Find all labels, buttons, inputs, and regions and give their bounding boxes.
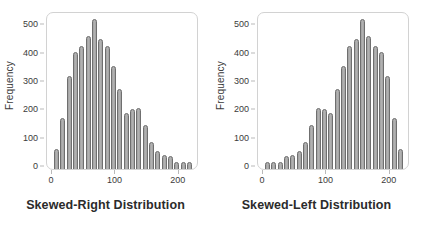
histogram-bar: [265, 162, 270, 170]
y-tick-label: 300: [23, 76, 38, 86]
histogram-bar: [130, 109, 135, 170]
histogram-bar: [79, 46, 84, 170]
x-tick-label: 0: [49, 175, 54, 185]
histogram-bar: [303, 142, 308, 170]
histogram-bar: [168, 156, 173, 170]
histogram-bar: [162, 155, 167, 170]
histogram-bar: [347, 46, 352, 170]
y-tick-label: 100: [234, 133, 249, 143]
histogram-bars-left: [47, 13, 197, 169]
histogram-bar: [271, 162, 276, 170]
panel-title-left: Skewed-Right Distribution: [0, 198, 211, 212]
histogram-bar: [284, 156, 289, 170]
histogram-bar: [341, 66, 346, 170]
histogram-bar: [136, 108, 141, 170]
histogram-bar: [98, 39, 103, 170]
y-tick-mark: [251, 166, 255, 167]
plot-area-right: [257, 12, 409, 170]
y-tick-label: 300: [234, 76, 249, 86]
y-axis-ticks-left: 0100200300400500: [16, 10, 44, 172]
x-tick-mark: [51, 170, 52, 174]
plot-area-left: [46, 12, 198, 170]
y-tick-mark: [251, 81, 255, 82]
y-tick-label: 400: [23, 48, 38, 58]
histogram-bar: [373, 46, 378, 170]
y-axis-ticks-right: 0100200300400500: [227, 10, 255, 172]
histogram-bar: [155, 151, 160, 170]
histogram-bar: [360, 19, 365, 170]
panel-title-right: Skewed-Left Distribution: [211, 198, 422, 212]
histogram-bar: [124, 113, 129, 170]
histogram-bar: [322, 109, 327, 170]
histogram-bar: [105, 46, 110, 170]
histogram-bar: [111, 66, 116, 170]
two-panel-histogram-figure: Frequency 0100200300400500 0100200 Skewe…: [0, 0, 422, 230]
y-tick-label: 200: [23, 104, 38, 114]
histogram-bar: [392, 118, 397, 170]
histogram-bar: [86, 36, 91, 170]
x-tick-label: 200: [170, 175, 185, 185]
x-axis-ticks-left: 0100200: [46, 170, 198, 192]
y-tick-mark: [40, 81, 44, 82]
y-tick-label: 500: [234, 19, 249, 29]
histogram-bars-right: [258, 13, 408, 169]
y-tick-label: 400: [234, 48, 249, 58]
y-tick-label: 0: [33, 161, 38, 171]
histogram-bar: [67, 76, 72, 170]
histogram-bar: [174, 162, 179, 170]
histogram-bar: [316, 108, 321, 170]
y-tick-mark: [40, 24, 44, 25]
x-tick-mark: [178, 170, 179, 174]
x-tick-label: 200: [381, 175, 396, 185]
histogram-bar: [328, 113, 333, 170]
y-tick-mark: [40, 52, 44, 53]
x-tick-label: 100: [318, 175, 333, 185]
histogram-bar: [149, 142, 154, 170]
x-tick-mark: [389, 170, 390, 174]
histogram-bar: [187, 162, 192, 170]
histogram-bar: [117, 89, 122, 170]
histogram-bar: [335, 89, 340, 170]
histogram-bar: [379, 52, 384, 170]
histogram-bar: [398, 149, 403, 170]
x-tick-label: 100: [107, 175, 122, 185]
x-tick-label: 0: [260, 175, 265, 185]
y-tick-mark: [251, 109, 255, 110]
y-tick-label: 200: [234, 104, 249, 114]
histogram-bar: [60, 118, 65, 170]
histogram-bar: [385, 76, 390, 170]
histogram-bar: [366, 36, 371, 170]
histogram-bar: [290, 155, 295, 170]
x-tick-mark: [262, 170, 263, 174]
y-tick-mark: [251, 24, 255, 25]
y-tick-mark: [251, 52, 255, 53]
histogram-bar: [92, 19, 97, 170]
x-tick-mark: [114, 170, 115, 174]
y-tick-label: 0: [244, 161, 249, 171]
y-tick-label: 500: [23, 19, 38, 29]
histogram-bar: [354, 39, 359, 170]
y-tick-mark: [251, 137, 255, 138]
histogram-bar: [278, 162, 283, 170]
x-axis-ticks-right: 0100200: [257, 170, 409, 192]
histogram-bar: [143, 125, 148, 170]
y-tick-mark: [40, 166, 44, 167]
histogram-bar: [54, 149, 59, 170]
panel-skewed-left: Frequency 0100200300400500 0100200 Skewe…: [211, 0, 422, 230]
y-axis-label-left-text: Frequency: [5, 60, 16, 109]
histogram-bar: [309, 125, 314, 170]
panel-skewed-right: Frequency 0100200300400500 0100200 Skewe…: [0, 0, 211, 230]
y-tick-mark: [40, 137, 44, 138]
y-tick-label: 100: [23, 133, 38, 143]
y-tick-mark: [40, 109, 44, 110]
histogram-bar: [73, 52, 78, 170]
histogram-bar: [297, 151, 302, 170]
histogram-bar: [181, 162, 186, 170]
x-tick-mark: [325, 170, 326, 174]
y-axis-label-right-text: Frequency: [216, 60, 227, 109]
